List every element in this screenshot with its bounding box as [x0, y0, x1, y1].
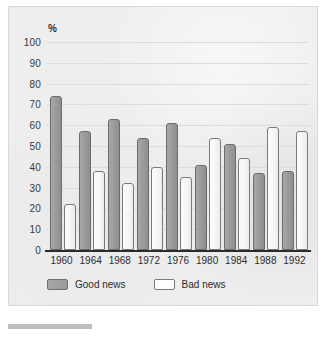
bar-1980-good-news — [195, 165, 207, 250]
y-axis-tick-label: 20 — [29, 203, 41, 214]
y-axis-tick-label: 70 — [29, 99, 41, 110]
x-axis-tick-label: 1960 — [50, 255, 72, 266]
bar-group — [224, 42, 250, 250]
x-axis-tick-label: 1972 — [138, 255, 160, 266]
bar-1984-good-news — [224, 144, 236, 250]
y-axis-unit-label: % — [48, 23, 57, 34]
bar-1968-good-news — [108, 119, 120, 250]
x-axis-tick-label: 1968 — [109, 255, 131, 266]
x-axis-tick-label: 1976 — [167, 255, 189, 266]
bar-group — [282, 42, 308, 250]
bar-1984-bad-news — [238, 158, 250, 250]
bar-1976-bad-news — [180, 177, 192, 250]
y-axis-tick-label: 60 — [29, 120, 41, 131]
caption-bar — [8, 324, 92, 329]
y-axis-tick-label: 90 — [29, 57, 41, 68]
x-axis-tick-label: 1984 — [225, 255, 247, 266]
x-axis-tick-label: 1988 — [254, 255, 276, 266]
bar-1972-good-news — [137, 138, 149, 250]
x-axis-tick-label: 1992 — [283, 255, 305, 266]
legend-swatch-bad-news — [154, 279, 175, 290]
bar-1980-bad-news — [209, 138, 221, 250]
legend-label: Bad news — [182, 279, 226, 290]
y-axis-tick-label: 80 — [29, 78, 41, 89]
bar-group — [108, 42, 134, 250]
chart-panel: % 1009080706050403020100 196019641968197… — [8, 6, 318, 306]
bar-group — [166, 42, 192, 250]
y-axis-tick-label: 0 — [35, 245, 41, 256]
bar-group — [50, 42, 76, 250]
x-axis-line — [45, 250, 311, 252]
legend-item-bad-news[interactable]: Bad news — [154, 279, 226, 290]
bar-1988-good-news — [253, 173, 265, 250]
y-axis-tick-label: 10 — [29, 224, 41, 235]
bar-1964-good-news — [79, 131, 91, 250]
y-axis-tick-label: 30 — [29, 182, 41, 193]
bar-1976-good-news — [166, 123, 178, 250]
bar-1992-bad-news — [296, 131, 308, 250]
bar-1964-bad-news — [93, 171, 105, 250]
y-axis-ticks: 1009080706050403020100 — [9, 42, 45, 250]
x-axis-tick-label: 1980 — [196, 255, 218, 266]
legend-label: Good news — [75, 279, 126, 290]
y-axis-tick-label: 100 — [24, 37, 41, 48]
bar-1960-good-news — [50, 96, 62, 250]
legend-item-good-news[interactable]: Good news — [47, 279, 126, 290]
x-axis-ticks: 196019641968197219761980198419881992 — [47, 255, 309, 273]
chart-legend: Good newsBad news — [47, 279, 226, 290]
y-axis-tick-label: 40 — [29, 161, 41, 172]
bar-1960-bad-news — [64, 204, 76, 250]
bar-group — [253, 42, 279, 250]
figure-root: % 1009080706050403020100 196019641968197… — [0, 0, 326, 337]
plot-area — [47, 42, 309, 250]
bar-1968-bad-news — [122, 183, 134, 250]
bar-1972-bad-news — [151, 167, 163, 250]
bar-group — [79, 42, 105, 250]
bar-1992-good-news — [282, 171, 294, 250]
y-axis-tick-label: 50 — [29, 141, 41, 152]
bar-group — [195, 42, 221, 250]
x-axis-tick-label: 1964 — [80, 255, 102, 266]
bar-1988-bad-news — [267, 127, 279, 250]
bar-group — [137, 42, 163, 250]
legend-swatch-good-news — [47, 279, 68, 290]
